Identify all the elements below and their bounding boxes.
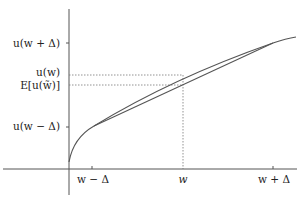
label-w: w: [179, 173, 188, 185]
utility-diagram: u(w + Δ) u(w) E[u(w̃)] u(w − Δ) w − Δ w …: [0, 0, 307, 202]
label-u-w-plus: u(w + Δ): [13, 37, 60, 49]
label-expected-utility: E[u(w̃)]: [20, 79, 60, 91]
chord: [94, 43, 273, 126]
label-u-w-minus: u(w − Δ): [13, 120, 60, 132]
label-u-w: u(w): [36, 66, 60, 78]
label-w-minus: w − Δ: [77, 173, 109, 185]
utility-curve: [69, 37, 296, 162]
label-w-plus: w + Δ: [258, 173, 290, 185]
